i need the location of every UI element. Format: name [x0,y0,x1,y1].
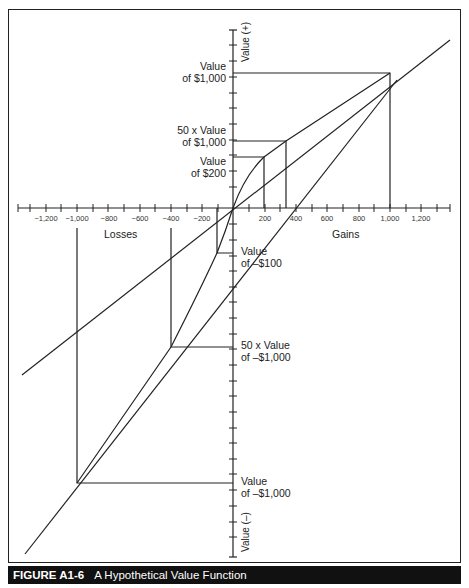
annotation-line: of –$100 [241,257,331,269]
annotation-line: Value [241,245,331,257]
annotation-value-200: Value of $200 [150,155,226,179]
guide-value-neg1000 [77,228,233,483]
annotation-fifty-value-1000: 50 x Value of $1,000 [150,124,226,148]
annotation-value-neg1000: Value of –$1,000 [241,475,331,499]
figure-caption: FIGURE A1-6A Hypothetical Value Function [8,566,461,584]
gains-label: Gains [332,228,359,240]
guide-value-200 [233,157,264,208]
annotation-line: 50 x Value [241,339,331,351]
annotation-value-neg100: Value of –$100 [241,245,331,269]
annotation-fifty-value-neg1000: 50 x Value of –$1,000 [241,339,331,363]
annotation-value-1000: Value of $1,000 [150,60,226,84]
y-positive-label: Value (+) [240,22,251,62]
annotation-line: of –$1,000 [241,351,331,363]
losses-label: Losses [104,228,137,240]
value-function-chart [0,0,469,588]
annotation-line: of –$1,000 [241,487,331,499]
y-negative-label: Value (–) [240,512,251,552]
annotation-line: 50 x Value [150,124,226,136]
x-tick-label: 1,200 [401,214,441,223]
annotation-line: Value [150,155,226,167]
annotation-line: Value [150,60,226,72]
annotation-line: Value [241,475,331,487]
annotation-line: of $1,000 [150,72,226,84]
figure-title: A Hypothetical Value Function [94,569,247,581]
annotation-line: of $200 [150,167,226,179]
annotation-line: of $1,000 [150,136,226,148]
figure-number: FIGURE A1-6 [13,569,84,581]
x-tick-label: −200 [182,214,222,223]
